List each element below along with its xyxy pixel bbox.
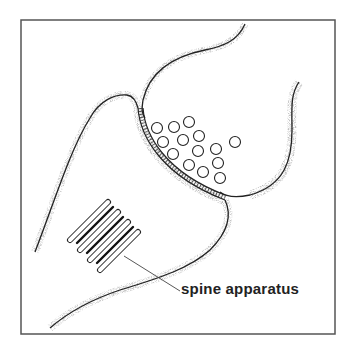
presynaptic-terminal xyxy=(142,24,299,196)
spine-apparatus-label: spine apparatus xyxy=(181,280,299,297)
spine-apparatus xyxy=(70,202,138,270)
synaptic-vesicles xyxy=(152,117,241,184)
synapse-diagram xyxy=(0,0,349,350)
synaptic-cleft xyxy=(138,108,225,200)
